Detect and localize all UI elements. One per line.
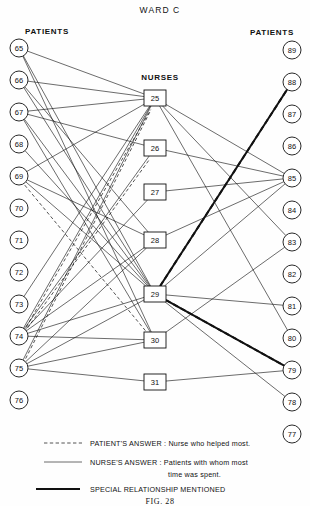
edge-nurse-answer-75-30	[28, 342, 144, 366]
edge-nurse-answer-66-25	[28, 81, 144, 96]
patient-node-85[interactable]: 85	[283, 169, 301, 187]
edge-nurse-answer-65-30	[23, 56, 151, 332]
node-label: 74	[15, 332, 23, 341]
node-label: 80	[288, 334, 296, 343]
node-label: 73	[15, 300, 23, 309]
patient-node-77[interactable]: 77	[283, 425, 301, 443]
figure-title: WARD C	[140, 5, 181, 15]
edge-nurse-answer-26-85	[166, 150, 283, 176]
edge-nurse-answer-29-81	[166, 295, 283, 305]
right-column-header: PATIENTS	[250, 28, 294, 37]
edge-nurse-answer-29-85	[164, 184, 285, 286]
edge-nurse-answer-74-29	[28, 297, 144, 333]
legend-text-1: NURSE'S ANSWER : Patients with whom most	[90, 458, 248, 467]
node-label: 81	[288, 302, 296, 311]
node-label: 82	[288, 270, 296, 279]
patient-node-87[interactable]: 87	[283, 105, 301, 123]
edge-nurse-answer-69-25	[27, 104, 144, 171]
node-label: 66	[15, 76, 23, 85]
node-label: 77	[288, 430, 296, 439]
left-column-header: PATIENTS	[25, 27, 69, 36]
edge-nurse-answer-25-83	[163, 106, 286, 235]
node-label: 78	[288, 398, 296, 407]
node-label: 71	[15, 236, 23, 245]
figure-caption: FIG. 28	[145, 497, 174, 506]
nurse-node-26[interactable]: 26	[144, 140, 166, 156]
edge-nurse-answer-75-31	[28, 369, 144, 381]
patient-node-71[interactable]: 71	[10, 231, 28, 249]
patient-node-79[interactable]: 79	[283, 361, 301, 379]
patient-node-75[interactable]: 75	[10, 359, 28, 377]
node-label: 65	[15, 44, 23, 53]
patient-node-83[interactable]: 83	[283, 233, 301, 251]
edge-nurse-answer-66-29	[24, 88, 150, 286]
nurse-node-28[interactable]: 28	[144, 232, 166, 248]
edge-patient-answer-74-26	[24, 160, 149, 333]
patient-node-84[interactable]: 84	[283, 201, 301, 219]
patient-node-89[interactable]: 89	[283, 41, 301, 59]
patient-node-68[interactable]: 68	[10, 135, 28, 153]
patient-node-88[interactable]: 88	[283, 73, 301, 91]
nurse-node-25[interactable]: 25	[144, 90, 166, 106]
node-label: 26	[151, 144, 159, 153]
node-label: 88	[288, 78, 296, 87]
nurse-node-31[interactable]: 31	[144, 374, 166, 390]
edge-nurse-answer-67-29	[24, 119, 149, 286]
edge-nurse-answer-73-25	[24, 106, 150, 296]
patient-node-86[interactable]: 86	[283, 137, 301, 155]
node-label: 27	[151, 188, 159, 197]
node-label: 25	[151, 94, 159, 103]
edge-nurse-answer-29-78	[165, 302, 285, 396]
node-layer: 6566676869707172737475762526272829303189…	[10, 39, 301, 443]
patient-node-65[interactable]: 65	[10, 39, 28, 57]
node-label: 86	[288, 142, 296, 151]
edge-nurse-answer-69-28	[27, 180, 144, 235]
sociogram-figure: 6566676869707172737475762526272829303189…	[0, 0, 310, 506]
node-label: 28	[151, 236, 159, 245]
patient-node-74[interactable]: 74	[10, 327, 28, 345]
node-label: 84	[288, 206, 296, 215]
sociogram-canvas: 6566676869707172737475762526272829303189…	[0, 0, 310, 506]
node-label: 83	[288, 238, 296, 247]
edge-nurse-answer-65-25	[27, 51, 144, 94]
node-label: 72	[15, 268, 23, 277]
nurse-node-30[interactable]: 30	[144, 332, 166, 348]
patient-node-82[interactable]: 82	[283, 265, 301, 283]
patient-node-76[interactable]: 76	[10, 391, 28, 409]
edge-nurse-answer-28-85	[166, 182, 284, 235]
edge-nurse-answer-74-30	[28, 336, 144, 339]
legend: PATIENT'S ANSWER : Nurse who helped most…	[36, 439, 250, 494]
node-label: 69	[15, 172, 23, 181]
node-label: 75	[15, 364, 23, 373]
node-label: 29	[151, 290, 159, 299]
node-label: 67	[15, 108, 23, 117]
patient-node-73[interactable]: 73	[10, 295, 28, 313]
nurse-node-27[interactable]: 27	[144, 184, 166, 200]
legend-text-2: time was spent.	[168, 470, 221, 479]
node-label: 89	[288, 46, 296, 55]
node-label: 68	[15, 140, 23, 149]
legend-text-3: SPECIAL RELATIONSHIP MENTIONED	[90, 485, 225, 494]
edge-patient-answer-75-25	[23, 110, 151, 364]
edge-nurse-answer-66-28	[25, 87, 148, 232]
patient-node-80[interactable]: 80	[283, 329, 301, 347]
center-column-header: NURSES	[141, 73, 179, 82]
legend-text-0: PATIENT'S ANSWER : Nurse who helped most…	[90, 439, 250, 448]
edge-nurse-answer-67-26	[28, 114, 144, 145]
edge-nurse-answer-30-83	[166, 247, 285, 332]
edge-nurse-answer-31-79	[166, 371, 283, 381]
patient-node-81[interactable]: 81	[283, 297, 301, 315]
node-label: 76	[15, 396, 23, 405]
node-label: 87	[288, 110, 296, 119]
nurse-node-29[interactable]: 29	[144, 286, 166, 302]
patient-node-66[interactable]: 66	[10, 71, 28, 89]
patient-node-67[interactable]: 67	[10, 103, 28, 121]
patient-node-78[interactable]: 78	[283, 393, 301, 411]
node-label: 85	[288, 174, 296, 183]
node-label: 30	[151, 336, 159, 345]
node-label: 31	[151, 378, 159, 387]
patient-node-72[interactable]: 72	[10, 263, 28, 281]
patient-node-69[interactable]: 69	[10, 167, 28, 185]
edge-nurse-answer-69-29	[26, 182, 146, 286]
patient-node-70[interactable]: 70	[10, 199, 28, 217]
